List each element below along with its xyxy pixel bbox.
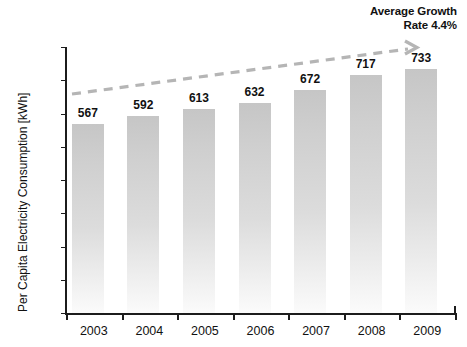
y-tick-mark bbox=[61, 247, 66, 248]
y-tick-mark bbox=[61, 47, 66, 48]
x-tick-label: 2003 bbox=[64, 324, 124, 338]
x-tick-mark bbox=[399, 313, 401, 320]
bar bbox=[405, 69, 437, 313]
bar bbox=[294, 90, 326, 313]
bar bbox=[239, 103, 271, 313]
x-tick-label: 2007 bbox=[286, 324, 346, 338]
x-tick-label: 2006 bbox=[231, 324, 291, 338]
y-tick-mark bbox=[61, 213, 66, 214]
bar-value-label: 592 bbox=[113, 99, 173, 111]
x-tick-mark bbox=[177, 313, 179, 320]
x-tick-mark bbox=[344, 313, 346, 320]
x-tick-label: 2005 bbox=[175, 324, 235, 338]
x-tick-mark bbox=[288, 313, 290, 320]
bar bbox=[127, 116, 159, 313]
bar bbox=[183, 109, 215, 313]
growth-rate-annotation: Average Growth Rate 4.4% bbox=[277, 4, 457, 32]
x-tick-label: 2008 bbox=[342, 324, 402, 338]
bar-chart: Average Growth Rate 4.4% Per Capita Elec… bbox=[0, 0, 467, 347]
y-tick-mark bbox=[61, 147, 66, 148]
bar bbox=[72, 124, 104, 313]
bar-value-label: 613 bbox=[169, 92, 229, 104]
x-tick-label: 2004 bbox=[119, 324, 179, 338]
x-tick-label: 2009 bbox=[397, 324, 457, 338]
x-tick-mark bbox=[122, 313, 124, 320]
plot-area: 0100200300400500600700800 56759261363267… bbox=[66, 47, 455, 313]
bar-value-label: 567 bbox=[58, 107, 118, 119]
bar bbox=[350, 75, 382, 313]
x-tick-mark bbox=[455, 313, 457, 320]
bar-value-label: 632 bbox=[225, 86, 285, 98]
bar-value-label: 672 bbox=[280, 73, 340, 85]
y-tick-mark bbox=[61, 180, 66, 181]
bar-value-label: 733 bbox=[391, 52, 451, 64]
y-tick-mark bbox=[61, 80, 66, 81]
y-axis-title: Per Capita Electricity Consumption [kWh] bbox=[14, 12, 32, 312]
x-tick-mark bbox=[233, 313, 235, 320]
annotation-line-2: Rate 4.4% bbox=[277, 18, 457, 32]
x-tick-mark bbox=[66, 313, 68, 320]
y-tick-mark bbox=[61, 280, 66, 281]
bar-value-label: 717 bbox=[336, 58, 396, 70]
annotation-line-1: Average Growth bbox=[277, 4, 457, 18]
